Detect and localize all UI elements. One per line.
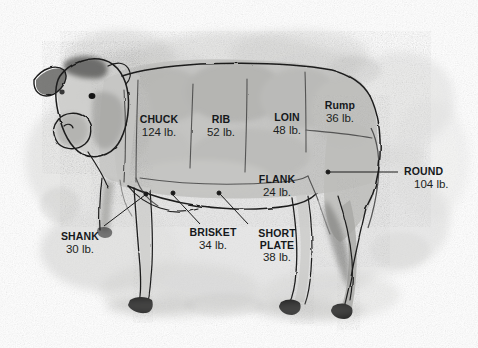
cut-name-shank: SHANK bbox=[52, 231, 108, 243]
cut-weight-rib: 52 lb. bbox=[196, 126, 246, 139]
cut-name-short-plate-line2: PLATE bbox=[248, 239, 306, 251]
cut-weight-shank: 30 lb. bbox=[52, 243, 108, 256]
cut-weight-round: 104 lb. bbox=[404, 178, 474, 191]
cut-label-shank: SHANK 30 lb. bbox=[52, 231, 108, 256]
cut-weight-flank: 24 lb. bbox=[250, 186, 304, 199]
cut-label-loin: LOIN 48 lb. bbox=[262, 112, 312, 137]
cut-label-chuck: CHUCK 124 lb. bbox=[128, 114, 190, 139]
muzzle-fill bbox=[56, 114, 89, 148]
cut-name-round: ROUND bbox=[404, 166, 474, 178]
eye-near bbox=[89, 93, 96, 99]
cut-weight-rump: 36 lb. bbox=[316, 112, 364, 125]
cut-label-short-plate: SHORT PLATE 38 lb. bbox=[248, 227, 306, 264]
cut-name-rump: Rump bbox=[316, 100, 364, 112]
cut-label-round: ROUND 104 lb. bbox=[404, 166, 474, 191]
cut-weight-loin: 48 lb. bbox=[262, 124, 312, 137]
cut-name-flank: FLANK bbox=[250, 174, 304, 186]
cut-label-brisket: BRISKET 34 lb. bbox=[180, 227, 246, 252]
leader-dot-round bbox=[326, 170, 330, 174]
cut-name-brisket: BRISKET bbox=[180, 227, 246, 239]
cut-label-rump: Rump 36 lb. bbox=[316, 100, 364, 125]
cut-weight-chuck: 124 lb. bbox=[128, 126, 190, 139]
cut-name-loin: LOIN bbox=[262, 112, 312, 124]
cut-name-rib: RIB bbox=[196, 114, 246, 126]
cut-name-chuck: CHUCK bbox=[128, 114, 190, 126]
cut-weight-short-plate: 38 lb. bbox=[248, 251, 306, 264]
beef-cuts-diagram: CHUCK 124 lb. RIB 52 lb. LOIN 48 lb. Rum… bbox=[0, 0, 478, 348]
cut-label-flank: FLANK 24 lb. bbox=[250, 174, 304, 199]
cut-name-short-plate-line1: SHORT bbox=[248, 227, 306, 239]
cut-label-rib: RIB 52 lb. bbox=[196, 114, 246, 139]
eye-far bbox=[59, 90, 64, 95]
cut-weight-brisket: 34 lb. bbox=[180, 239, 246, 252]
